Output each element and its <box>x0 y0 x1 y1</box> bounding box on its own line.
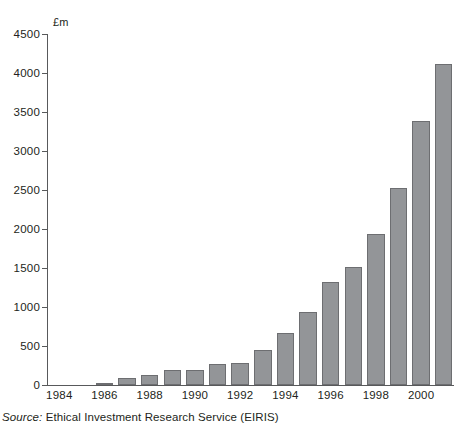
bar-slot-1995 <box>297 34 320 385</box>
bar-slot-1986 <box>93 34 116 385</box>
bar-slot-1989 <box>161 34 184 385</box>
bar-1988 <box>141 375 158 385</box>
bar-slot-1998 <box>365 34 388 385</box>
y-axis-tick-mark <box>42 190 47 191</box>
y-axis-tick-label: 4000 <box>14 67 40 79</box>
y-axis-tick-label: 3500 <box>14 106 40 118</box>
y-axis-tick-label: 2000 <box>14 223 40 235</box>
bar-1992 <box>231 363 248 385</box>
source-text: Ethical Investment Research Service (EIR… <box>42 411 278 423</box>
y-axis-tick-mark <box>42 346 47 347</box>
bar-1987 <box>118 378 135 385</box>
bar-1993 <box>254 350 271 385</box>
bar-1996 <box>322 282 339 385</box>
x-axis-tick-label-1990: 1990 <box>182 389 208 401</box>
x-axis-tick-label-2000: 2000 <box>408 389 434 401</box>
source-caption: Source: Ethical Investment Research Serv… <box>2 411 279 423</box>
bar-1986 <box>96 383 113 385</box>
y-axis-tick-label: 1000 <box>14 301 40 313</box>
y-axis-tick-mark <box>42 307 47 308</box>
bar-series <box>48 34 454 385</box>
y-axis-tick-label: 0 <box>33 379 40 391</box>
y-axis-tick-mark <box>42 34 47 35</box>
y-axis-unit-label: £m <box>53 16 69 28</box>
bar-1995 <box>299 312 316 385</box>
bar-slot-1994 <box>274 34 297 385</box>
bar-slot-1992 <box>229 34 252 385</box>
x-axis-line <box>47 385 454 386</box>
bar-1999 <box>390 188 407 385</box>
bar-slot-2000 <box>410 34 433 385</box>
y-axis-tick-mark <box>42 229 47 230</box>
bar-slot-1999 <box>387 34 410 385</box>
x-axis-tick-label-1996: 1996 <box>317 389 343 401</box>
y-axis-tick-mark <box>42 73 47 74</box>
x-axis-tick-label-1992: 1992 <box>227 389 253 401</box>
x-axis-tick-labels: 198419861988199019921994199619982000 <box>48 389 455 407</box>
bar-slot-2001 <box>432 34 455 385</box>
bar-slot-1987 <box>116 34 139 385</box>
y-axis-tick-label: 4500 <box>14 28 40 40</box>
bar-slot-1984 <box>48 34 71 385</box>
y-axis-tick-label: 500 <box>20 340 40 352</box>
y-axis-tick-label: 2500 <box>14 184 40 196</box>
bar-slot-1988 <box>138 34 161 385</box>
bar-slot-1997 <box>342 34 365 385</box>
x-axis-tick-label-1994: 1994 <box>272 389 298 401</box>
x-axis-tick-label-1988: 1988 <box>137 389 163 401</box>
source-prefix: Source: <box>2 411 42 423</box>
bar-1991 <box>209 364 226 385</box>
y-axis-tick-mark <box>42 112 47 113</box>
x-axis-tick-label-1984: 1984 <box>46 389 72 401</box>
y-axis-tick-label: 3000 <box>14 145 40 157</box>
bar-1998 <box>367 234 384 385</box>
bar-slot-1985 <box>71 34 94 385</box>
y-axis-tick-mark <box>42 385 47 386</box>
bar-1989 <box>164 370 181 385</box>
bar-slot-1991 <box>206 34 229 385</box>
bar-slot-1990 <box>184 34 207 385</box>
y-axis-tick-mark <box>42 268 47 269</box>
plot-area: 050010001500200025003000350040004500 <box>47 34 454 385</box>
bar-2001 <box>435 64 452 385</box>
y-axis-tick-label: 1500 <box>14 262 40 274</box>
bar-1994 <box>277 333 294 385</box>
bar-chart-figure: £m 050010001500200025003000350040004500 … <box>0 0 462 434</box>
bar-slot-1996 <box>319 34 342 385</box>
x-axis-tick-label-1998: 1998 <box>363 389 389 401</box>
bar-2000 <box>412 121 429 385</box>
y-axis-tick-mark <box>42 151 47 152</box>
bar-1990 <box>186 370 203 385</box>
bar-slot-1993 <box>252 34 275 385</box>
x-axis-tick-label-1986: 1986 <box>91 389 117 401</box>
bar-1997 <box>345 267 362 385</box>
